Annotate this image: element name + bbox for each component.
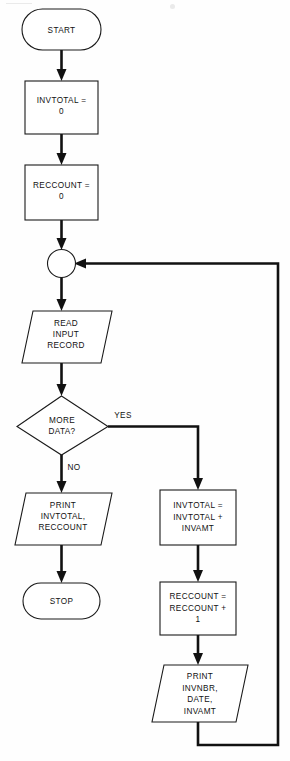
node-init-reccount-line1: RECCOUNT = xyxy=(33,181,90,190)
node-init-invtotal-line1: INVTOTAL = xyxy=(37,96,87,105)
node-increment-line3: 1 xyxy=(196,615,201,624)
edge-label-no: NO xyxy=(68,463,81,472)
node-print-detail-line3: DATE, xyxy=(187,695,212,704)
node-print-detail-line4: INVAMT xyxy=(184,707,216,716)
edge-label-yes: YES xyxy=(114,411,132,420)
node-print-detail-line2: INVNBR, xyxy=(182,684,218,693)
node-print-totals[interactable]: PRINT INVTOTAL, RECCOUNT xyxy=(15,493,112,545)
edge-print-to-stop xyxy=(57,545,67,583)
node-increment-line1: RECCOUNT = xyxy=(170,592,227,601)
node-start-label: START xyxy=(48,26,76,35)
node-init-invtotal[interactable]: INVTOTAL = 0 xyxy=(25,81,98,134)
node-read-record-line2: INPUT xyxy=(53,330,79,339)
edge-no-branch xyxy=(57,455,67,493)
edge-connector-to-read xyxy=(57,277,67,311)
node-decision-line2: DATA? xyxy=(49,427,76,436)
node-decision-more-data[interactable]: MORE DATA? xyxy=(17,396,108,455)
node-loop-connector[interactable] xyxy=(48,250,76,278)
edge-yes-branch xyxy=(108,427,203,491)
node-stop[interactable]: STOP xyxy=(23,583,100,619)
edge-start-to-invtotal xyxy=(57,50,67,81)
node-increment-line2: RECCOUNT + xyxy=(170,604,227,613)
node-start[interactable]: START xyxy=(22,9,101,50)
node-accumulate-line2: INVTOTAL + xyxy=(173,513,223,522)
node-read-record[interactable]: READ INPUT RECORD xyxy=(22,311,112,363)
node-init-invtotal-line2: 0 xyxy=(59,107,64,116)
flowchart-canvas: START INVTOTAL = 0 RECCOUNT = 0 READ INP… xyxy=(0,0,290,761)
edge-invtotal-to-reccount xyxy=(57,134,67,165)
node-print-detail-line1: PRINT xyxy=(187,672,213,681)
node-increment-reccount[interactable]: RECCOUNT = RECCOUNT + 1 xyxy=(160,582,236,635)
edge-reccount-to-connector xyxy=(57,220,67,250)
edge-read-to-decision xyxy=(57,363,67,396)
node-read-record-line1: READ xyxy=(54,319,78,328)
flowchart-svg: START INVTOTAL = 0 RECCOUNT = 0 READ INP… xyxy=(0,0,290,761)
node-accumulate-line3: INVAMT xyxy=(182,524,214,533)
node-print-totals-line3: RECCOUNT xyxy=(38,523,87,532)
node-init-reccount[interactable]: RECCOUNT = 0 xyxy=(25,165,98,220)
edge-increment-to-printdetail xyxy=(193,635,203,665)
node-stop-label: STOP xyxy=(50,597,74,606)
node-read-record-line3: RECORD xyxy=(47,341,85,350)
node-decision-line1: MORE xyxy=(49,416,75,425)
node-print-totals-line1: PRINT xyxy=(50,501,76,510)
node-print-totals-line2: INVTOTAL, xyxy=(41,512,86,521)
node-init-reccount-line2: 0 xyxy=(59,192,64,201)
edge-accumulate-to-increment xyxy=(193,545,203,582)
node-accumulate-line1: INVTOTAL = xyxy=(173,501,223,510)
node-print-detail[interactable]: PRINT INVNBR, DATE, INVAMT xyxy=(152,665,248,722)
node-accumulate-invtotal[interactable]: INVTOTAL = INVTOTAL + INVAMT xyxy=(160,490,236,545)
